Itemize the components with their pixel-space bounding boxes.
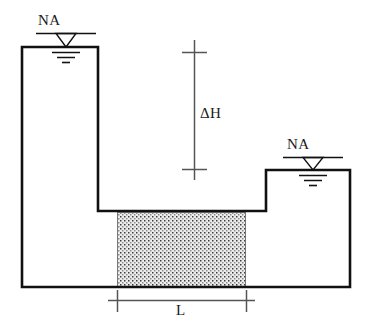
water-table-symbol-right <box>283 158 343 186</box>
diagram-canvas <box>0 0 367 335</box>
water-level-triangle-left <box>56 34 76 48</box>
length-label: L <box>176 303 185 318</box>
seepage-diagram: NA NA ΔH L <box>0 0 367 335</box>
na-right-label: NA <box>287 137 310 152</box>
delta-h-label: ΔH <box>200 106 221 121</box>
water-level-triangle-right <box>303 158 323 171</box>
soil-layer-fill <box>117 212 246 287</box>
na-left-label: NA <box>38 13 61 28</box>
soil-layer-block <box>117 212 246 287</box>
